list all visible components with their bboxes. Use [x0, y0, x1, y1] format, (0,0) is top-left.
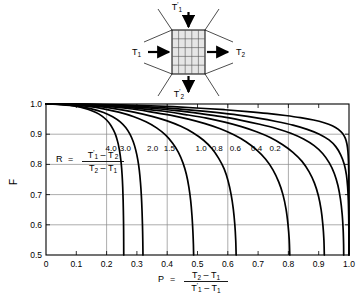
x-tick-label: 0.6	[222, 259, 234, 269]
x-tick-label: 0.2	[101, 259, 113, 269]
y-tick-label: 0.9	[30, 129, 42, 139]
r-formula-numerator: T'1 – T'2	[88, 149, 119, 160]
curve-label-0.6: 0.6	[230, 144, 242, 153]
x-tick-label: 0.9	[313, 259, 325, 269]
y-tick-label: 0.7	[30, 190, 42, 200]
x-tick-label: 0.3	[131, 259, 143, 269]
p-formula-numerator: T2 – T1	[192, 270, 220, 281]
r-formula-equals: =	[68, 154, 73, 164]
p-formula-equals: =	[170, 274, 175, 284]
x-tick-label: 0	[44, 259, 49, 269]
curve-label-3.0: 3.0	[120, 144, 132, 153]
x-tick-label: 0.8	[282, 259, 294, 269]
y-tick-label: 1.0	[30, 99, 42, 109]
curve-label-1.0: 1.0	[196, 144, 208, 153]
exchanger-core	[172, 30, 205, 74]
p-formula-symbol: P	[158, 274, 164, 284]
chart-figure: T'1 T1 T2 T'2 00.10.20.30.40.50.60.70.80…	[0, 0, 358, 298]
x-tick-label: 0.4	[161, 259, 173, 269]
x-tick-label: 0.7	[252, 259, 264, 269]
y-tick-label: 0.5	[30, 250, 42, 260]
y-tick-label: 0.8	[30, 159, 42, 169]
curve-label-0.8: 0.8	[212, 144, 224, 153]
p-formula-denominator: T'1 – T1	[191, 282, 221, 294]
x-tick-label: 1.0	[343, 259, 355, 269]
curve-label-0.4: 0.4	[251, 144, 263, 153]
r-formula-denominator: T2 – T1	[89, 163, 117, 174]
y-axis-label: F	[8, 179, 19, 185]
y-tick-label: 0.6	[30, 220, 42, 230]
x-tick-label: 0.5	[192, 259, 204, 269]
curve-label-2.0: 2.0	[147, 144, 159, 153]
curve-label-0.2: 0.2	[270, 144, 282, 153]
r-formula-symbol: R	[56, 154, 63, 164]
curve-label-1.5: 1.5	[164, 144, 176, 153]
x-tick-label: 0.1	[70, 259, 82, 269]
